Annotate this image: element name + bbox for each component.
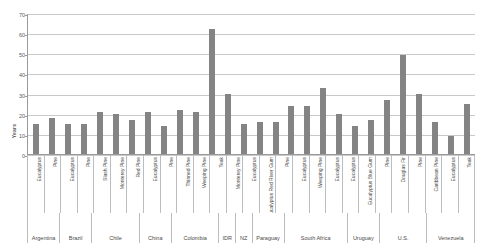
bar [177,110,183,154]
bar-slot [28,14,44,154]
x-axis-species-cell: Eucalyptus [28,155,45,213]
bar [273,122,279,154]
x-axis-country-cell: Colombia [172,213,220,243]
bar-slot [411,14,427,154]
bar [241,124,247,154]
bar [81,124,87,154]
plot-area: 010203040506070 [27,14,475,155]
bar-slot [427,14,443,154]
x-axis-country-label: South Africa [301,235,331,241]
x-axis-country-cell: China [140,213,172,243]
bar [209,29,215,154]
x-axis-species-label: Monterey Pine [119,157,125,189]
x-axis-country-cell: Paraguay [253,213,285,243]
bar-slot [188,14,204,154]
bar-slot [140,14,156,154]
bar [352,126,358,154]
x-axis-country-label: U.S. [398,235,409,241]
x-axis-country-cell: NZ [236,213,253,243]
x-axis-species-cell: Monterey Pine [227,155,244,213]
x-axis-species-cell: Eucalyptus [293,155,310,213]
bar-slot [315,14,331,154]
x-axis-species-cell: Pine [376,155,393,213]
x-axis-species-cell: Thinned Pine [177,155,194,213]
x-axis-species-label: Eucalyptus [152,157,158,181]
x-axis-species-label: Eucalyptus Blue Gum [367,157,373,205]
bar [113,114,119,154]
x-axis-country-label: NZ [240,235,247,241]
x-axis-species-cell: Slash Pine [94,155,111,213]
x-axis-species-cell: Eucalyptus Blue Gum [359,155,376,213]
x-axis-species-cell: Eucalyptus [442,155,459,213]
x-axis-species-label: Monterey Pine [235,157,241,189]
x-axis-species-cell: Pine [78,155,95,213]
x-axis-country-label: Paraguay [256,235,280,241]
bar-slot [443,14,459,154]
x-axis-country-label: Uruguay [353,235,374,241]
x-axis-country-label: Brazil [69,235,83,241]
x-axis-country-cell: Brazil [60,213,92,243]
x-axis-species-cell: Teak [459,155,476,213]
bar-slot [124,14,140,154]
bar [336,114,342,154]
x-axis-species-label: Red Pine [135,157,141,178]
x-axis-species-label: Eucalyptus [301,157,307,181]
x-axis-species-label: Teak [218,157,224,168]
x-axis-species-label: Pine [384,157,390,167]
bar [49,118,55,154]
bar-slot [284,14,300,154]
bar [400,55,406,154]
bar-slot [108,14,124,154]
bar-series [28,14,475,154]
x-axis-species-cell: Eucalyptus [326,155,343,213]
x-axis-species-label: Caribbean Pine [433,157,439,191]
x-axis-country-cell: Argentina [28,213,60,243]
x-axis-country-label: Argentina [32,235,56,241]
x-axis-country-cell: IDR [219,213,236,243]
bar [161,126,167,154]
bar [145,112,151,154]
x-axis-species-label: Pine [168,157,174,167]
x-axis-species-cell: Eucalyptus [343,155,360,213]
x-axis-species-label: Eucalyptus [350,157,356,181]
x-axis-species-cell: Eucalyptus [144,155,161,213]
x-axis-country-cell: U.S. [380,213,428,243]
bar-slot [379,14,395,154]
bar [257,122,263,154]
x-axis-species-cell: Caribbean Pine [426,155,443,213]
x-axis-species-label: Teak [466,157,472,168]
bar [97,112,103,154]
bar [448,136,454,154]
x-axis-species-cell: Eucalyptus [61,155,78,213]
bar [368,120,374,154]
x-axis-species-cell: Red Pine [127,155,144,213]
bar [225,94,231,154]
x-axis-species-cell: Pine [409,155,426,213]
x-axis-species-cell: Weeping Pine [310,155,327,213]
bar [320,88,326,154]
bar-slot [268,14,284,154]
x-axis-species-label: Weeping Pine [201,157,207,188]
bar [416,94,422,154]
bar [129,120,135,154]
bar-slot [172,14,188,154]
bar-slot [204,14,220,154]
x-axis-species-cell: Teak [210,155,227,213]
bar-slot [76,14,92,154]
x-axis-species-label: Eucalyptus [450,157,456,181]
bar [65,124,71,154]
x-axis-species-cell: Douglas Fir [392,155,409,213]
x-axis-species-label: Eucalyptus Red River Gum [268,157,274,213]
bar-slot [44,14,60,154]
x-axis-country-label: IDR [222,235,231,241]
x-axis-species-label: Thinned Pine [185,157,191,186]
x-axis-species-label: Slash Pine [102,157,108,181]
bar-slot [60,14,76,154]
x-axis-species-label: Douglas Fir [400,157,406,183]
x-axis-species-cell: Eucalyptus [243,155,260,213]
x-axis-species-label: Eucalyptus [69,157,75,181]
bar-slot [92,14,108,154]
bar-slot [220,14,236,154]
bar [304,106,310,154]
x-axis-species-cell: Pine [276,155,293,213]
